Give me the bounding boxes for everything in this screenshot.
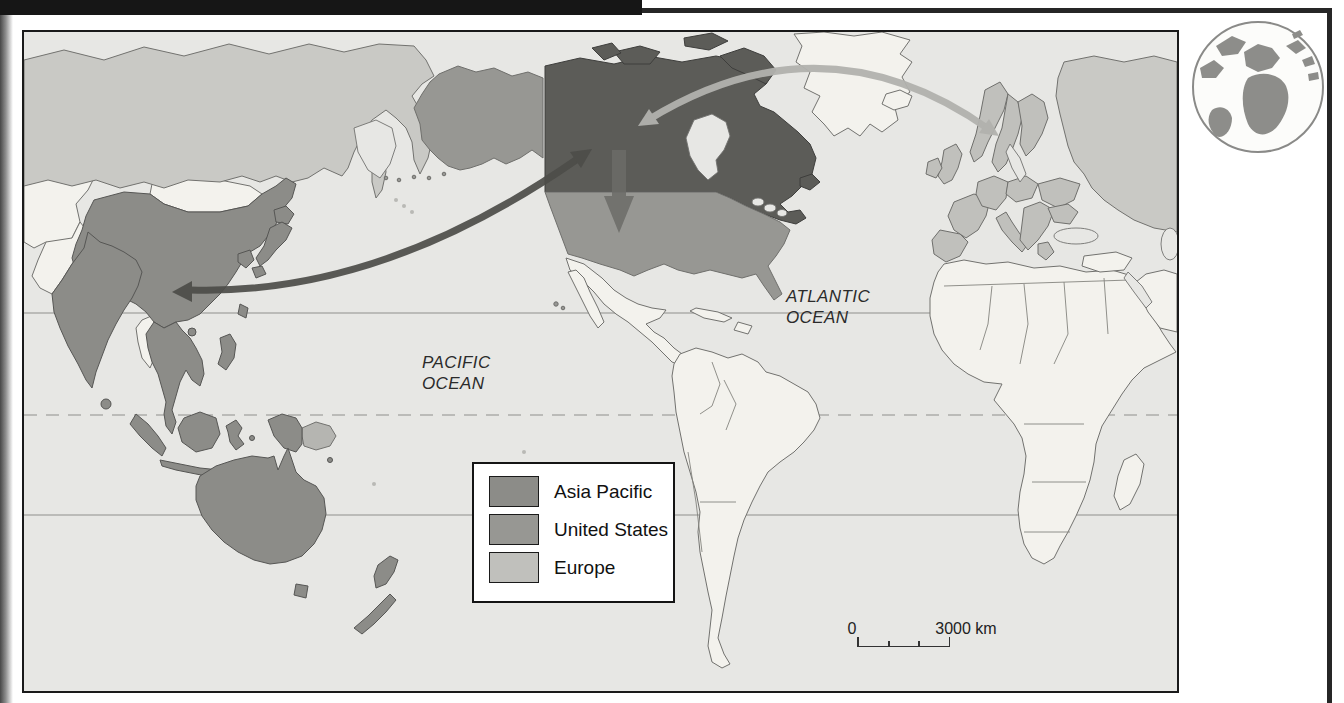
chapter-tab-bar	[0, 0, 642, 15]
greece-shape	[1038, 242, 1054, 260]
hainan-shape	[188, 328, 196, 336]
aleutian-island	[442, 172, 446, 176]
legend-swatch-asia-pacific	[489, 476, 539, 507]
new-guinea-west-shape	[268, 414, 302, 452]
finland-shape	[1018, 94, 1048, 156]
mexico-central-america-shape	[566, 258, 688, 366]
legend-row-europe: Europe	[489, 552, 673, 583]
legend-swatch-united-states	[489, 514, 539, 545]
black-sea	[1054, 228, 1098, 244]
madagascar-shape	[1114, 454, 1144, 510]
alaska-shape	[414, 66, 543, 170]
page: { "map": { "ocean_labels": { "pacific": …	[0, 0, 1344, 703]
hawaii-island	[554, 302, 558, 306]
great-lake	[752, 198, 764, 206]
solomon-islands	[328, 458, 333, 463]
romania-shape	[1048, 204, 1078, 224]
legend-label-asia-pacific: Asia Pacific	[554, 481, 652, 503]
atlantic-label-line1: ATLANTIC	[786, 286, 870, 307]
pacific-label-line1: PACIFIC	[422, 352, 491, 373]
scale-tick	[857, 637, 859, 646]
atlantic-ocean-label: ATLANTIC OCEAN	[786, 286, 870, 328]
new-zealand-north-shape	[374, 556, 398, 588]
aleutian-island	[397, 178, 401, 182]
scale-tick	[949, 637, 951, 646]
legend-label-united-states: United States	[554, 519, 668, 541]
great-lake	[764, 204, 776, 212]
papua-new-guinea-east-shape	[302, 422, 336, 450]
hispaniola-shape	[734, 322, 752, 334]
legend-row-united-states: United States	[489, 514, 673, 545]
legend-swatch-europe	[489, 552, 539, 583]
atlantic-label-line2: OCEAN	[786, 307, 870, 328]
scale-ruler	[857, 637, 950, 647]
africa-shape	[930, 260, 1176, 564]
scale-max-label: 3000 km	[926, 620, 1006, 638]
new-zealand-south-shape	[354, 594, 396, 634]
ukraine-shape	[1038, 178, 1080, 208]
south-america-shape	[672, 348, 820, 668]
aleutian-island	[412, 175, 416, 179]
united-kingdom-shape	[938, 144, 962, 184]
aleutian-island	[384, 176, 388, 180]
great-lake	[777, 210, 787, 217]
legend-label-europe: Europe	[554, 557, 615, 579]
japan-hokkaido-shape	[274, 206, 294, 224]
globe-icon	[1188, 16, 1328, 158]
cuba-shape	[690, 308, 732, 322]
map-legend: Asia Pacific United States Europe	[472, 462, 675, 603]
scale-tick	[918, 641, 920, 646]
japan-kyushu-shape	[252, 266, 266, 278]
philippines-shape	[218, 334, 236, 370]
scale-tick	[888, 641, 890, 646]
legend-row-asia-pacific: Asia Pacific	[489, 476, 673, 507]
tasmania-shape	[294, 584, 308, 598]
region-asia-pacific	[52, 178, 398, 634]
hawaii-island	[561, 306, 565, 310]
moluccas-island	[250, 436, 255, 441]
turkey-shape	[1082, 252, 1132, 272]
ellesmere-island-shape	[684, 33, 728, 50]
sri-lanka-shape	[101, 399, 111, 409]
sulawesi-shape	[226, 420, 244, 450]
scale-zero-label: 0	[840, 620, 864, 638]
sea-of-okhotsk	[354, 120, 396, 178]
sumatra-shape	[130, 414, 166, 456]
australia-shape	[196, 448, 326, 564]
banks-island-shape	[592, 43, 621, 60]
borneo-shape	[178, 412, 220, 452]
caspian-sea	[1161, 228, 1177, 260]
pacific-label-line2: OCEAN	[422, 373, 491, 394]
taiwan-shape	[238, 304, 248, 318]
aleutian-island	[427, 176, 431, 180]
page-frame-top	[642, 8, 1330, 13]
russia-west-shape	[1056, 56, 1177, 232]
book-gutter-shadow	[0, 15, 13, 703]
pacific-ocean-label: PACIFIC OCEAN	[422, 352, 491, 394]
world-map: PACIFIC OCEAN ATLANTIC OCEAN Asia Pacifi…	[22, 30, 1179, 693]
